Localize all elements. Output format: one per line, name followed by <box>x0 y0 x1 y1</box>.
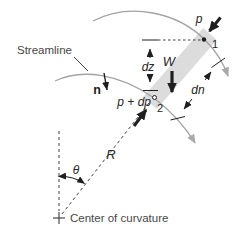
normal-vector-arrow-icon <box>104 73 107 90</box>
outer-streamline-curve <box>93 11 228 76</box>
normal-vector-label: n <box>93 83 101 97</box>
theta-angle-arc-icon <box>59 176 85 183</box>
figure-streamline-normal-forces: Streamline n dz W p 1 p + dp 2 dn R θ Ce… <box>0 0 246 235</box>
dn-arrow-lower-icon <box>184 99 192 109</box>
dn-label: dn <box>191 83 205 97</box>
dz-label: dz <box>142 60 155 74</box>
streamline-label: Streamline <box>17 44 72 56</box>
pressure-2-label: p + dp <box>116 95 151 109</box>
radius-label: R <box>106 147 115 162</box>
diagram-canvas: Streamline n dz W p 1 p + dp 2 dn R θ Ce… <box>0 0 246 235</box>
point-2-label: 2 <box>157 102 163 114</box>
point-1-dot <box>202 37 206 41</box>
weight-label: W <box>163 54 177 69</box>
streamline-pointer-line <box>74 57 88 71</box>
theta-label: θ <box>73 163 80 177</box>
dn-upper-tick <box>212 58 226 68</box>
center-of-curvature-plus-icon <box>53 212 65 224</box>
pressure-2-force-arrow-icon <box>134 110 146 126</box>
pressure-1-force-arrow-icon <box>210 18 221 32</box>
point-2-dot <box>153 96 157 100</box>
center-of-curvature-label: Center of curvature <box>70 212 168 224</box>
point-1-label: 1 <box>212 38 218 50</box>
dn-arrow-upper-icon <box>205 72 211 80</box>
pressure-1-label: p <box>195 12 203 26</box>
